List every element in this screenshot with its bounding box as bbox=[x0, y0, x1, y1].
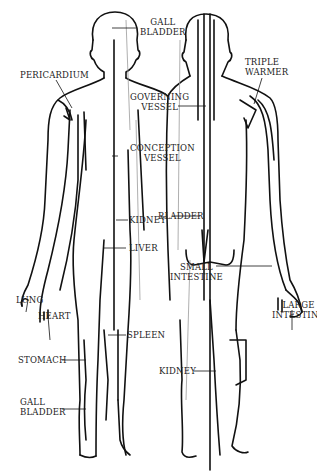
label-line: BLADDER bbox=[20, 407, 66, 417]
label-line: TRIPLE bbox=[245, 57, 288, 67]
back-figure bbox=[167, 14, 303, 470]
label-line: VESSEL bbox=[130, 153, 195, 163]
label-line: CONCEPTION bbox=[130, 143, 195, 153]
label-line: VESSEL bbox=[130, 102, 189, 112]
label-line: LARGE bbox=[272, 300, 317, 310]
label-line: GALL bbox=[140, 17, 186, 27]
label-stomach: STOMACH bbox=[18, 355, 67, 365]
label-kidney-front: KIDNEY bbox=[129, 215, 166, 225]
label-pericardium: PERICARDIUM bbox=[20, 70, 89, 80]
label-line: INTESTINE bbox=[170, 272, 223, 282]
label-gall-bladder-top: GALL BLADDER bbox=[140, 17, 186, 37]
label-line: WARMER bbox=[245, 67, 288, 77]
label-kidney-back: KIDNEY bbox=[159, 366, 196, 376]
label-line: GALL bbox=[20, 397, 66, 407]
label-spleen: SPLEEN bbox=[127, 330, 165, 340]
label-lung: LUNG bbox=[16, 295, 43, 305]
label-line: SMALL bbox=[170, 262, 223, 272]
label-gall-bladder-bottom: GALL BLADDER bbox=[20, 397, 66, 417]
label-line: INTESTINE bbox=[272, 310, 317, 320]
label-governing-vessel: GOVERNING VESSEL bbox=[130, 92, 189, 112]
label-large-intestine: LARGE INTESTINE bbox=[272, 300, 317, 320]
label-liver: LIVER bbox=[129, 243, 158, 253]
label-line: GOVERNING bbox=[130, 92, 189, 102]
label-triple-warmer: TRIPLE WARMER bbox=[245, 57, 288, 77]
label-conception-vessel: CONCEPTION VESSEL bbox=[130, 143, 195, 163]
label-small-intestine: SMALL INTESTINE bbox=[170, 262, 223, 282]
label-line: BLADDER bbox=[140, 27, 186, 37]
label-heart: HEART bbox=[38, 311, 71, 321]
